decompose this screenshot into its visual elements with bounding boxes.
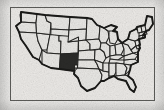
us-map[interactable] xyxy=(11,8,154,100)
state-alabama[interactable] xyxy=(109,63,116,76)
state-mississippi[interactable] xyxy=(103,63,109,72)
state-north-dakota[interactable] xyxy=(69,17,87,30)
map-figure xyxy=(0,0,164,110)
state-kansas[interactable] xyxy=(78,50,95,60)
